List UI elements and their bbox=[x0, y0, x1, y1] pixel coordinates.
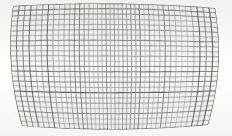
figure-root bbox=[0, 0, 232, 136]
warped-mesh-grid-image bbox=[0, 0, 232, 136]
